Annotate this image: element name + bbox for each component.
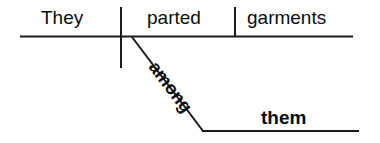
verb-word: parted bbox=[147, 8, 201, 27]
subject-word: They bbox=[41, 8, 83, 27]
sentence-diagram: They parted garments among them bbox=[0, 0, 380, 143]
object-of-preposition-word: them bbox=[261, 108, 306, 127]
direct-object-word: garments bbox=[247, 8, 326, 27]
